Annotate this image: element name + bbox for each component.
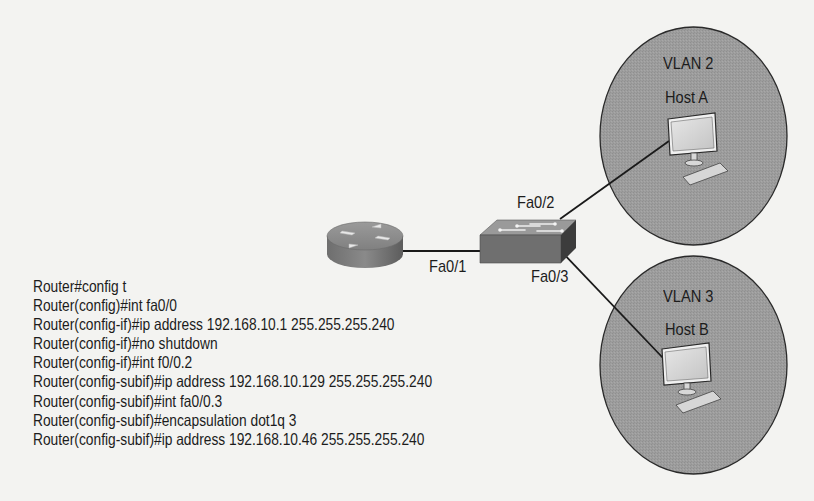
config-line: Router(config-subif)#int fa0/0.3 — [33, 392, 432, 411]
config-line: Router(config-subif)#ip address 192.168.… — [33, 372, 432, 391]
switch-icon[interactable] — [480, 220, 576, 263]
host-b-label: Host B — [665, 321, 709, 338]
port-label-fa0-2: Fa0/2 — [517, 194, 554, 211]
port-label-fa0-1: Fa0/1 — [429, 258, 466, 275]
port-label-fa0-3: Fa0/3 — [531, 268, 568, 285]
config-line: Router(config-if)#ip address 192.168.10.… — [33, 315, 432, 334]
vlan-2-label: VLAN 2 — [663, 55, 713, 72]
config-line: Router(config-if)#no shutdown — [33, 334, 432, 353]
config-line: Router(config-subif)#encapsulation dot1q… — [33, 411, 432, 430]
router-icon[interactable] — [327, 222, 403, 268]
config-line: Router(config)#int fa0/0 — [33, 296, 432, 315]
config-line: Router#config t — [33, 277, 432, 296]
config-line: Router(config-subif)#ip address 192.168.… — [33, 430, 432, 449]
host-a-label: Host A — [665, 89, 708, 106]
router-config-listing: Router#config t Router(config)#int fa0/0… — [33, 277, 432, 449]
vlan-3-label: VLAN 3 — [663, 288, 713, 305]
config-line: Router(config-if)#int f0/0.2 — [33, 353, 432, 372]
